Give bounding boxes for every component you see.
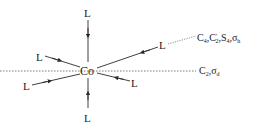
bond-lower-right	[97, 73, 130, 81]
c4-axis-label: C4,C′2,S4,σh	[197, 32, 240, 44]
bond-upper-left	[45, 56, 80, 67]
ligand-lower-right-label: L	[131, 77, 138, 89]
bond-lower-left	[32, 74, 80, 85]
ligand-upper-left-label: L	[36, 51, 43, 63]
coordination-diagram: Co L L L L L L C4,C′2,S4,σh C2,σd	[0, 0, 256, 131]
arrow-lower-right	[116, 78, 124, 80]
c2-axis-label: C2,σd	[199, 65, 220, 77]
c4-axis-line	[168, 36, 196, 44]
center-atom-label: Co	[80, 64, 94, 78]
ligand-bottom-label: L	[84, 112, 91, 124]
arrow-upper-right	[142, 50, 150, 53]
ligand-lower-left-label: L	[23, 80, 30, 92]
ligand-upper-right-label: L	[159, 39, 166, 51]
arrow-lower-left	[42, 81, 50, 83]
ligand-top-label: L	[84, 7, 91, 19]
arrow-upper-left	[52, 58, 60, 61]
